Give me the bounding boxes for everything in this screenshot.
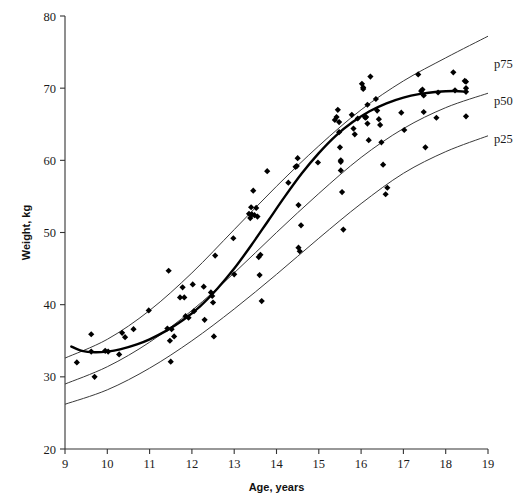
x-tick-label: 13 (228, 457, 241, 471)
data-point (373, 96, 379, 102)
y-tick-label: 20 (44, 443, 57, 457)
x-tick-label: 17 (397, 457, 410, 471)
x-tick-label: 18 (439, 457, 452, 471)
data-point (377, 122, 383, 128)
data-point (421, 109, 427, 115)
data-point (463, 89, 469, 95)
x-tick-label: 15 (313, 457, 326, 471)
data-point (201, 317, 207, 323)
data-point (376, 116, 382, 122)
data-point (364, 120, 370, 126)
fitted-curve (71, 91, 467, 352)
data-point (295, 202, 301, 208)
data-point (285, 180, 291, 186)
data-point (401, 127, 407, 133)
y-tick-label: 80 (44, 10, 57, 24)
data-point (350, 125, 356, 131)
data-point (88, 331, 94, 337)
data-point (463, 113, 469, 119)
data-point (295, 155, 301, 161)
data-point (339, 189, 345, 195)
fitted-mean-curve (71, 91, 467, 352)
data-point (366, 137, 372, 143)
data-point (383, 191, 389, 197)
data-point (380, 162, 386, 168)
percentile-curves (65, 36, 488, 404)
data-point (181, 294, 187, 300)
percentile-curve-p50 (65, 93, 488, 384)
x-tick-label: 9 (62, 457, 68, 471)
data-point (210, 299, 216, 305)
y-tick-label: 70 (44, 82, 57, 96)
data-point (211, 333, 217, 339)
data-point (179, 284, 185, 290)
x-axis-title: Age, years (249, 481, 305, 493)
curve-label-p75: p75 (494, 57, 513, 71)
data-point (230, 235, 236, 241)
data-point (256, 272, 262, 278)
data-points (74, 69, 469, 380)
y-tick-label: 60 (44, 154, 57, 168)
data-point (340, 227, 346, 233)
data-point (349, 112, 355, 118)
x-tick-label: 16 (355, 457, 368, 471)
y-axis-title: Weight, kg (20, 205, 32, 260)
axis-and-curve-labels: 20304050607080910111213141516171819Age, … (20, 10, 513, 494)
data-point (337, 144, 343, 150)
data-point (452, 87, 458, 93)
data-point (433, 115, 439, 121)
data-point (201, 284, 207, 290)
data-point (352, 131, 358, 137)
data-point (335, 107, 341, 113)
percentile-curve-p75 (65, 36, 488, 358)
data-point (315, 159, 321, 165)
data-point (435, 89, 441, 95)
x-tick-label: 11 (144, 457, 156, 471)
x-tick-label: 19 (482, 457, 495, 471)
data-point (250, 188, 256, 194)
data-point (298, 222, 304, 228)
data-point (264, 168, 270, 174)
data-point (450, 69, 456, 75)
y-tick-label: 40 (44, 298, 57, 312)
y-tick-label: 50 (44, 226, 57, 240)
x-tick-label: 10 (101, 457, 114, 471)
data-point (116, 351, 122, 357)
scatter-plot-figure: 20304050607080910111213141516171819Age, … (0, 0, 526, 501)
percentile-curve-p25 (65, 136, 488, 404)
data-point (171, 333, 177, 339)
data-point (415, 71, 421, 77)
data-point (166, 268, 172, 274)
data-point (398, 110, 404, 116)
x-tick-label: 14 (270, 457, 283, 471)
data-point (88, 348, 94, 354)
data-point (422, 144, 428, 150)
chart-canvas: 20304050607080910111213141516171819Age, … (0, 0, 526, 501)
y-tick-label: 30 (44, 370, 57, 384)
data-point (259, 298, 265, 304)
data-point (367, 74, 373, 80)
x-tick-label: 12 (186, 457, 199, 471)
data-point (190, 281, 196, 287)
curve-label-p25: p25 (494, 132, 513, 146)
data-point (212, 252, 218, 258)
curve-label-p50: p50 (494, 94, 513, 108)
data-point (92, 374, 98, 380)
data-point (130, 326, 136, 332)
data-point (74, 359, 80, 365)
data-point (168, 359, 174, 365)
data-point (253, 205, 259, 211)
data-point (167, 338, 173, 344)
